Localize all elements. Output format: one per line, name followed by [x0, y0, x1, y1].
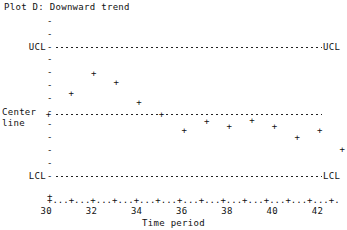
- x-axis-tick-label: 42: [312, 206, 323, 217]
- data-point: +: [293, 133, 302, 142]
- data-point: +: [338, 145, 347, 154]
- x-axis-tick-label: 40: [267, 206, 278, 217]
- control-chart: Plot D: Downward trend UCL Center line L…: [0, 0, 347, 230]
- plot-area: ++++++++++++++: [0, 0, 347, 205]
- x-axis-tick-label: 34: [131, 206, 142, 217]
- data-point: +: [89, 69, 98, 78]
- x-axis-tick-label: 38: [221, 206, 232, 217]
- data-point: +: [225, 122, 234, 131]
- x-axis: +...+...+...+...+...+...+...+...+...+...…: [47, 196, 342, 205]
- data-point: +: [180, 126, 189, 135]
- x-axis-tick-label: 36: [176, 206, 187, 217]
- data-point: +: [112, 78, 121, 87]
- data-point: +: [247, 116, 256, 125]
- data-point: +: [67, 89, 76, 98]
- x-axis-tick-labels: 30323436384042: [0, 206, 347, 218]
- x-axis-tick-label: 30: [41, 206, 52, 217]
- data-point: +: [44, 110, 53, 119]
- x-axis-tick-label: 32: [86, 206, 97, 217]
- data-point: +: [134, 98, 143, 107]
- data-point: +: [202, 117, 211, 126]
- data-point: +: [315, 126, 324, 135]
- data-point: +: [270, 122, 279, 131]
- data-point: +: [157, 110, 166, 119]
- x-axis-title: Time period: [0, 218, 347, 229]
